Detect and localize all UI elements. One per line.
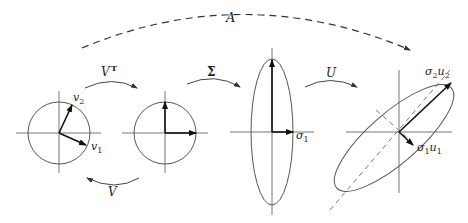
transform-V-label: V (108, 185, 118, 199)
stage-input-circle: v2 v1 (16, 91, 102, 173)
stage-output-ellipse: σ2u2 σ1u1 (320, 65, 468, 210)
transform-U-label: U (326, 66, 337, 80)
transform-A-label: A (225, 10, 235, 25)
transform-Sigma-label: Σ (207, 65, 215, 79)
principal-axis-dashed (330, 70, 450, 210)
vector-sigma1-u1 (399, 132, 413, 145)
label-sigma1: σ1 (296, 129, 309, 144)
vector-v2 (59, 105, 72, 133)
label-v1: v1 (91, 140, 102, 155)
vector-v1 (59, 133, 86, 145)
transform-VT-arrow: V T (85, 63, 137, 88)
vector-sigma2-u2 (399, 83, 451, 132)
transform-VT-label: V (101, 65, 111, 79)
transform-U-arrow: U (305, 66, 357, 87)
transform-V-arrow: V (87, 178, 139, 199)
stage-scaled-ellipse: σ1 (230, 48, 314, 215)
label-sigma2-u2: σ2u2 (425, 65, 450, 80)
label-v2: v2 (73, 91, 84, 106)
minor-axis-dashed (376, 110, 412, 142)
transform-Sigma-arrow: Σ (187, 65, 240, 87)
stage-rotated-circle (122, 91, 208, 173)
svd-diagram: A V T Σ U V v2 v1 (0, 0, 468, 223)
transform-VT-superscript: T (111, 63, 117, 73)
transform-A-arrow: A (82, 10, 410, 50)
label-sigma1-u1: σ1u1 (417, 141, 442, 156)
